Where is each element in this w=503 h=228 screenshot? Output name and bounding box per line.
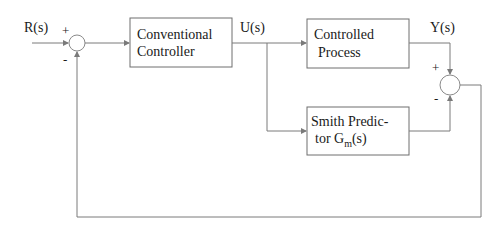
controller-label-line1: Conventional [137, 27, 213, 42]
output-sum-minus-sign: - [434, 91, 438, 106]
control-signal-label: U(s) [240, 20, 265, 36]
output-sum-plus-sign: + [432, 60, 439, 75]
input-sum-minus-sign: - [63, 52, 67, 67]
predictor-branch-arrow [267, 43, 306, 131]
conventional-controller-block: Conventional Controller [130, 18, 232, 67]
feedback-path-arrow [77, 52, 481, 217]
predictor-label-suffix: (s) [352, 131, 367, 147]
process-label-line2: Process [318, 45, 361, 60]
output-signal-arrow [409, 43, 450, 74]
predictor-label-line1: Smith Predic- [311, 114, 389, 129]
predictor-label-prefix: tor G [315, 131, 344, 146]
block-diagram: R(s) + - Conventional Controller U(s) Co… [0, 0, 503, 228]
input-sum-plus-sign: + [62, 23, 69, 38]
controller-label-line2: Controller [137, 44, 195, 59]
output-summing-junction [440, 75, 460, 95]
controlled-process-block: Controlled Process [307, 19, 409, 68]
input-signal-label: R(s) [24, 20, 48, 36]
output-signal-label: Y(s) [430, 20, 455, 36]
smith-predictor-block: Smith Predic- tor Gm(s) [307, 107, 409, 155]
process-label-line1: Controlled [314, 27, 374, 42]
predictor-output-arrow [409, 96, 450, 131]
input-summing-junction [69, 35, 85, 51]
